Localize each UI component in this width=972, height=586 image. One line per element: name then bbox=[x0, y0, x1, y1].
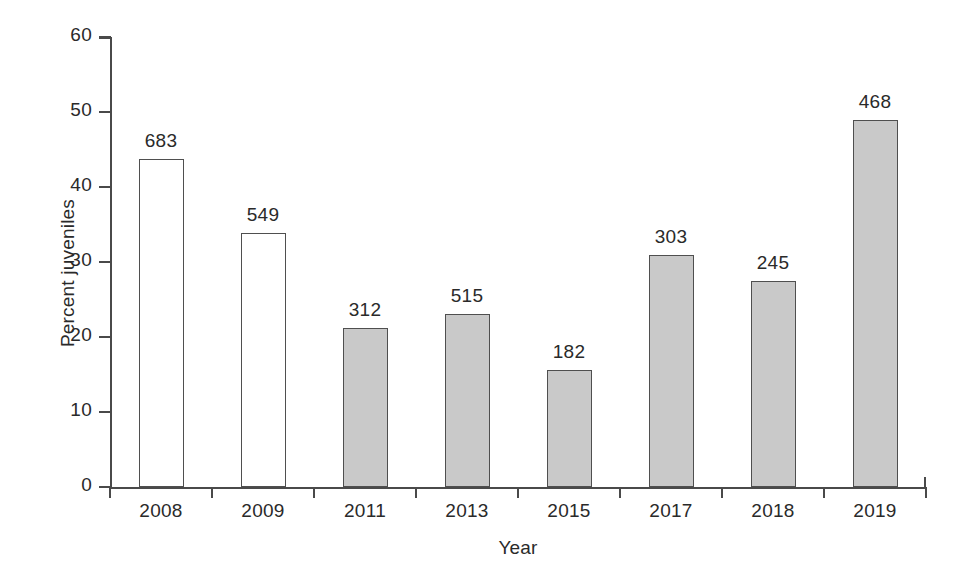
bar-2008 bbox=[139, 159, 184, 487]
bar-value-label-2018: 245 bbox=[722, 252, 824, 274]
x-axis-title: Year bbox=[110, 537, 926, 559]
x-tick-label-2009: 2009 bbox=[212, 500, 314, 522]
bar-2019 bbox=[853, 120, 898, 488]
y-tick-50 bbox=[99, 111, 111, 113]
x-tick-0 bbox=[109, 487, 111, 498]
bar-chart-figure: Percent juveniles 0102030405060 20082009… bbox=[0, 0, 972, 586]
y-tick-10 bbox=[99, 411, 111, 413]
x-tick-7 bbox=[823, 487, 825, 498]
bar-value-label-2019: 468 bbox=[824, 91, 926, 113]
bar-value-label-2015: 182 bbox=[518, 341, 620, 363]
x-tick-2 bbox=[313, 487, 315, 498]
x-tick-label-2017: 2017 bbox=[620, 500, 722, 522]
y-tick-label-30: 30 bbox=[22, 249, 92, 271]
bar-2009 bbox=[241, 233, 286, 487]
x-tick-label-2019: 2019 bbox=[824, 500, 926, 522]
y-tick-label-60: 60 bbox=[22, 24, 92, 46]
x-tick-label-2011: 2011 bbox=[314, 500, 416, 522]
y-tick-label-10: 10 bbox=[22, 399, 92, 421]
bar-value-label-2011: 312 bbox=[314, 299, 416, 321]
y-tick-label-0: 0 bbox=[22, 474, 92, 496]
y-tick-30 bbox=[99, 261, 111, 263]
bar-2018 bbox=[751, 281, 796, 487]
x-tick-4 bbox=[517, 487, 519, 498]
bar-2013 bbox=[445, 314, 490, 487]
x-tick-label-2015: 2015 bbox=[518, 500, 620, 522]
x-tick-8 bbox=[925, 487, 927, 498]
x-tick-5 bbox=[619, 487, 621, 498]
bar-value-label-2017: 303 bbox=[620, 226, 722, 248]
x-tick-6 bbox=[721, 487, 723, 498]
bar-value-label-2008: 683 bbox=[110, 130, 212, 152]
x-tick-label-2018: 2018 bbox=[722, 500, 824, 522]
y-tick-40 bbox=[99, 186, 111, 188]
x-tick-3 bbox=[415, 487, 417, 498]
x-tick-label-2008: 2008 bbox=[110, 500, 212, 522]
bar-2011 bbox=[343, 328, 388, 487]
x-tick-1 bbox=[211, 487, 213, 498]
x-tick-label-2013: 2013 bbox=[416, 500, 518, 522]
y-tick-20 bbox=[99, 336, 111, 338]
bar-2017 bbox=[649, 255, 694, 487]
bar-value-label-2013: 515 bbox=[416, 285, 518, 307]
y-tick-label-40: 40 bbox=[22, 174, 92, 196]
y-tick-60 bbox=[99, 36, 111, 38]
y-tick-label-20: 20 bbox=[22, 324, 92, 346]
bar-2015 bbox=[547, 370, 592, 487]
y-tick-label-50: 50 bbox=[22, 99, 92, 121]
bar-value-label-2009: 549 bbox=[212, 204, 314, 226]
